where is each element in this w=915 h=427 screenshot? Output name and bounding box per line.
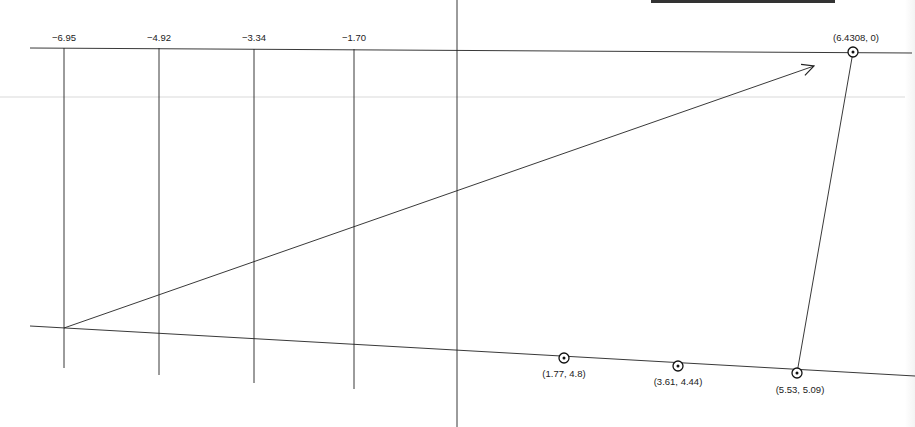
sloped-baseline bbox=[30, 326, 915, 376]
point-label: (6.4308, 0) bbox=[833, 33, 879, 43]
top-label: −4.92 bbox=[147, 33, 171, 43]
arrow-line bbox=[64, 66, 814, 328]
point-label: (1.77, 4.8) bbox=[542, 369, 585, 379]
point-marker-1-77-4-8 bbox=[559, 353, 569, 363]
right-edge-line bbox=[797, 52, 853, 373]
top-reference-line bbox=[30, 48, 912, 53]
diagram-canvas: −6.95 −4.92 −3.34 −1.70 (6.4308, 0) (1.7… bbox=[0, 0, 915, 427]
point-label: (5.53, 5.09) bbox=[776, 385, 825, 395]
point-label: (3.61, 4.44) bbox=[654, 377, 703, 387]
point-marker-6-4308-0 bbox=[848, 47, 858, 57]
top-label: −1.70 bbox=[342, 33, 366, 43]
point-marker-5-53-5-09 bbox=[792, 368, 802, 378]
point-marker-3-61-4-44 bbox=[673, 361, 683, 371]
top-label: −3.34 bbox=[242, 33, 266, 43]
construction-drawing bbox=[0, 0, 915, 427]
top-label: −6.95 bbox=[52, 33, 76, 43]
